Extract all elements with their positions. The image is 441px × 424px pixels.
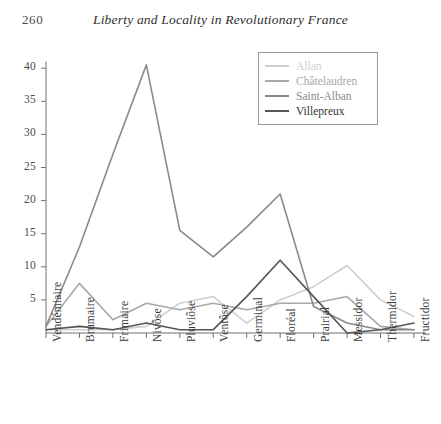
legend-item[interactable]: Châtelaudren (265, 73, 371, 88)
y-axis-tick-label: 20 (10, 193, 36, 205)
x-axis-tick-label: Germinal (252, 297, 264, 342)
x-axis-tick-label: Nivôse (151, 308, 163, 342)
legend-line-swatch-icon (265, 95, 289, 97)
y-axis-tick-label: 25 (10, 160, 36, 172)
legend-line-swatch-icon (265, 80, 289, 82)
y-axis-tick-label: 30 (10, 126, 36, 138)
x-axis-tick-label: Frimaire (118, 301, 130, 342)
chart-legend: AllanChâtelaudrenSaint-AlbanVillepreux (258, 52, 378, 125)
x-axis-tick-label: Pluviôse (185, 301, 197, 342)
page-header: 260 Liberty and Locality in Revolutionar… (0, 0, 441, 40)
line-chart-figure: 510152025303540 VendémiaireBrumaireFrima… (0, 40, 441, 424)
x-axis-tick-label: Ventôse (218, 304, 230, 342)
y-axis-tick-label: 10 (10, 259, 36, 271)
x-axis-tick-label: Floréal (285, 308, 297, 342)
y-axis-tick-label: 35 (10, 93, 36, 105)
legend-label: Châtelaudren (296, 75, 357, 87)
legend-item[interactable]: Villepreux (265, 103, 371, 118)
legend-line-swatch-icon (265, 110, 289, 112)
legend-label: Villepreux (296, 105, 345, 117)
page-title: Liberty and Locality in Revolutionary Fr… (0, 12, 441, 28)
legend-label: Allan (296, 60, 322, 72)
x-axis-tick-label: Prairial (319, 307, 331, 342)
x-axis-tick-label: Vendémiaire (51, 282, 63, 342)
legend-item[interactable]: Allan (265, 58, 371, 73)
x-axis-tick-label: Brumaire (84, 297, 96, 342)
y-axis-tick-label: 15 (10, 226, 36, 238)
x-axis-tick-label: Fructidor (419, 297, 431, 342)
x-axis-tick-label: Thermidor (386, 291, 398, 342)
y-axis-tick-label: 5 (10, 292, 36, 304)
legend-label: Saint-Alban (296, 90, 352, 102)
y-axis-tick-label: 40 (10, 60, 36, 72)
legend-line-swatch-icon (265, 65, 289, 67)
x-axis-tick-label: Messidor (352, 298, 364, 342)
legend-item[interactable]: Saint-Alban (265, 88, 371, 103)
